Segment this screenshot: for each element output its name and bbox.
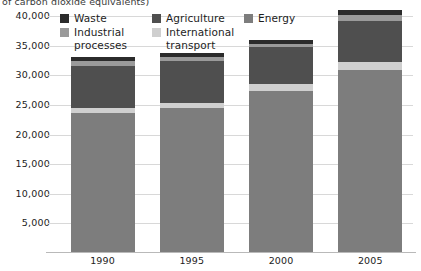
y-axis-tick-label: 25,000: [2, 100, 50, 110]
chart-title-clipped: of carbon dioxide equivalents): [2, 0, 232, 10]
x-axis-tick-label: 1990: [71, 255, 135, 266]
y-axis-tick-label: 20,000: [2, 130, 50, 140]
legend-label: Waste: [74, 12, 107, 25]
legend-swatch-icon: [60, 14, 69, 23]
bar-segment-industrial-processes[interactable]: [71, 61, 135, 66]
y-axis-tick-label: 15,000: [2, 159, 50, 169]
legend-swatch-icon: [244, 14, 253, 23]
legend-label: International transport: [166, 26, 234, 51]
bar-segment-international-transport[interactable]: [249, 84, 313, 91]
legend-swatch-icon: [152, 14, 161, 23]
x-axis-labels: 1990199520002005: [56, 255, 413, 271]
stacked-bar-chart: of carbon dioxide equivalents) 40,00035,…: [0, 0, 421, 271]
x-axis-tick-label: 1995: [160, 255, 224, 266]
bar-segment-waste[interactable]: [71, 57, 135, 61]
legend-item-waste[interactable]: Waste: [60, 12, 107, 25]
bar-segment-international-transport[interactable]: [160, 103, 224, 108]
legend-label: Energy: [258, 12, 295, 25]
legend-swatch-icon: [152, 28, 161, 37]
bar-1995[interactable]: [160, 53, 224, 253]
bar-segment-agriculture[interactable]: [71, 66, 135, 109]
bar-segment-waste[interactable]: [338, 10, 402, 15]
bar-2005[interactable]: [338, 10, 402, 253]
legend-item-industrial-processes[interactable]: Industrial processes: [60, 26, 127, 51]
bar-segment-industrial-processes[interactable]: [338, 15, 402, 22]
bar-segment-energy[interactable]: [71, 113, 135, 253]
y-axis-tick-label: 35,000: [2, 41, 50, 51]
y-axis-tick-label: 5,000: [2, 218, 50, 228]
y-axis-tick-label: 40,000: [2, 11, 50, 21]
bar-segment-energy[interactable]: [160, 108, 224, 253]
y-axis-labels: 40,00035,00030,00025,00020,00015,00010,0…: [0, 16, 50, 253]
y-axis-tick-label: 30,000: [2, 70, 50, 80]
bar-segment-agriculture[interactable]: [338, 21, 402, 61]
bar-segment-industrial-processes[interactable]: [160, 57, 224, 61]
legend-item-energy[interactable]: Energy: [244, 12, 295, 25]
legend-swatch-icon: [60, 28, 69, 37]
legend-label: Agriculture: [166, 12, 225, 25]
legend-item-agriculture[interactable]: Agriculture: [152, 12, 225, 25]
bar-segment-agriculture[interactable]: [160, 61, 224, 102]
chart-legend: WasteAgricultureEnergyIndustrial process…: [60, 12, 310, 56]
y-axis-tick-label: 10,000: [2, 189, 50, 199]
bar-segment-international-transport[interactable]: [71, 108, 135, 113]
x-axis-line: [46, 252, 416, 253]
x-axis-tick-label: 2005: [338, 255, 402, 266]
bar-1990[interactable]: [71, 57, 135, 253]
bar-segment-energy[interactable]: [338, 70, 402, 253]
bar-segment-energy[interactable]: [249, 91, 313, 253]
x-axis-tick-label: 2000: [249, 255, 313, 266]
legend-label: Industrial processes: [74, 26, 127, 51]
bar-segment-international-transport[interactable]: [338, 62, 402, 70]
bar-2000[interactable]: [249, 40, 313, 253]
legend-item-international-transport[interactable]: International transport: [152, 26, 234, 51]
